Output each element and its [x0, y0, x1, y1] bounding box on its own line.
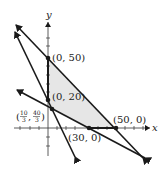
label-num-2: 40	[33, 109, 41, 116]
vertex-label-10-3-40-3: ( 10 3 , 40 3 )	[16, 109, 45, 123]
vertex-label-30-0: (30, 0)	[68, 132, 101, 143]
label-close-paren: )	[41, 111, 45, 122]
vertex-label-0-20: (0, 20)	[52, 91, 85, 102]
vertex-10-3-40-3	[50, 107, 55, 112]
label-num-1: 10	[20, 109, 28, 116]
label-den-1: 3	[22, 116, 26, 123]
feasible-region-graph: y x (0, 50) (0, 20) (30, 0) (50, 0) ( 10…	[0, 0, 164, 170]
vertex-label-0-50: (0, 50)	[52, 52, 85, 63]
vertex-0-50	[46, 56, 51, 61]
vertex-0-20	[46, 98, 51, 103]
y-axis-label: y	[45, 9, 52, 20]
vertex-30-0	[87, 126, 92, 131]
vertex-label-50-0: (50, 0)	[113, 114, 146, 125]
label-den-2: 3	[35, 116, 39, 123]
vertex-50-0	[114, 126, 119, 131]
x-axis-label: x	[152, 122, 158, 133]
label-comma: ,	[28, 111, 31, 122]
